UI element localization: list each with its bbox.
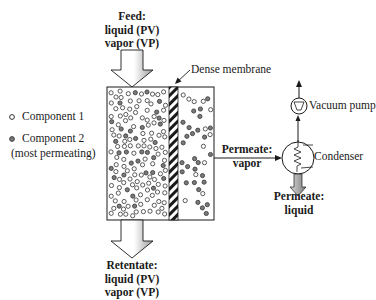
feed-line2: vapor (VP) bbox=[92, 37, 172, 51]
pump-exhaust-arrow-icon bbox=[296, 80, 302, 98]
permeate-vapor-label: Permeate: vapor bbox=[216, 143, 278, 170]
permeate-vapor-title: Permeate: bbox=[216, 143, 278, 157]
legend-component-1-label: Component 1 bbox=[22, 111, 84, 123]
legend-note: (most permeating) bbox=[11, 148, 96, 160]
condenser-icon bbox=[282, 140, 314, 174]
retentate-line1: liquid (PV) bbox=[90, 273, 174, 287]
permeate-liquid-line1: liquid bbox=[268, 204, 330, 218]
feed-line1: liquid (PV) bbox=[92, 24, 172, 38]
feed-arrow-icon bbox=[111, 50, 153, 87]
legend-open-circle-icon bbox=[10, 115, 15, 120]
dense-membrane-label: Dense membrane bbox=[191, 64, 271, 76]
vacuum-pump-label: Vacuum pump bbox=[309, 100, 376, 112]
retentate-label: Retentate: liquid (PV) vapor (VP) bbox=[90, 259, 174, 300]
vacuum-pump-icon bbox=[291, 98, 307, 114]
permeate-liquid-title: Permeate: bbox=[268, 190, 330, 204]
membrane-pointer-arrow-icon bbox=[175, 70, 190, 84]
retentate-line2: vapor (VP) bbox=[90, 286, 174, 300]
condenser-label: Condenser bbox=[314, 151, 363, 163]
feed-label: Feed: liquid (PV) vapor (VP) bbox=[92, 10, 172, 51]
legend-filled-circle-icon bbox=[10, 137, 15, 142]
retentate-title: Retentate: bbox=[90, 259, 174, 273]
legend-component-2-label: Component 2 bbox=[22, 133, 84, 145]
feed-title: Feed: bbox=[92, 10, 172, 24]
dense-membrane bbox=[169, 87, 178, 220]
permeate-vapor-line1: vapor bbox=[216, 157, 278, 171]
condenser-to-pump-line bbox=[296, 115, 301, 142]
permeate-liquid-label: Permeate: liquid bbox=[268, 190, 330, 217]
retentate-arrow-icon bbox=[111, 220, 153, 258]
